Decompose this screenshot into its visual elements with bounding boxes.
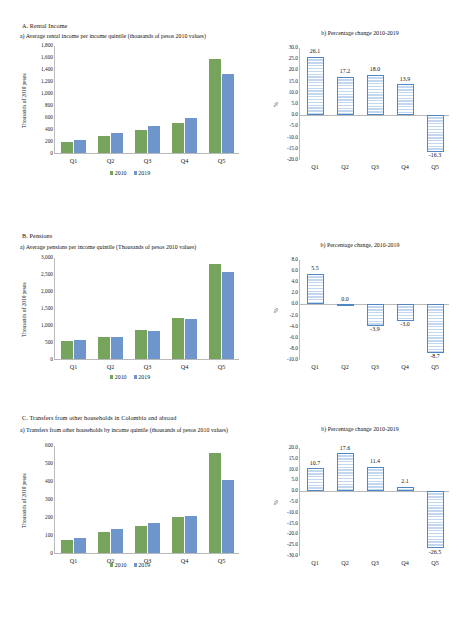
y-tick-label: 600 xyxy=(45,115,53,120)
bar-Q1-2019 xyxy=(74,340,86,359)
bar-Q1-2019 xyxy=(74,538,86,553)
y-tick-label: 100 xyxy=(45,533,53,538)
pct-bar-Q4 xyxy=(397,304,414,321)
data-label-Q5: -16.3 xyxy=(429,153,441,159)
bar-Q5-2010 xyxy=(209,453,221,553)
plot-area-c-a: 0100200300400500600Q1Q2Q3Q4Q5 xyxy=(54,446,239,554)
x-axis-label-Q3: Q3 xyxy=(371,164,379,170)
x-axis-label-Q4: Q4 xyxy=(401,364,409,370)
legend-swatch-2010-icon xyxy=(110,171,113,174)
pct-bar-Q1 xyxy=(307,274,324,305)
legend-swatch-2010-icon xyxy=(110,563,113,566)
legend-a: 2010 2019 xyxy=(110,170,150,176)
y-tick-label: 3,000 xyxy=(41,255,53,260)
x-axis-label-Q3: Q3 xyxy=(371,364,379,370)
x-axis-label-Q3: Q3 xyxy=(144,364,152,370)
y-tick-label: 0 xyxy=(50,551,53,556)
section-heading-b: B. Pensions xyxy=(0,232,459,239)
y-axis-title-a-b: % xyxy=(273,102,279,107)
section-transfers: C. Transfers from other households in Co… xyxy=(0,414,459,435)
plot-area-b-a: 05001,0001,5002,0002,5003,000Q1Q2Q3Q4Q5 xyxy=(54,258,239,360)
data-label-Q1: 26.1 xyxy=(310,49,320,55)
y-tick-label: -5.0 xyxy=(290,499,298,504)
x-axis-label-Q5: Q5 xyxy=(218,558,226,564)
x-axis-label-Q4: Q4 xyxy=(181,158,189,164)
y-tick-label: -5.0 xyxy=(290,124,298,129)
legend-label-2010-c: 2010 xyxy=(115,562,127,568)
y-tick-label: 10.0 xyxy=(289,90,298,95)
pct-bar-Q2 xyxy=(337,453,354,491)
y-axis-title-c-b: % xyxy=(273,500,279,505)
bar-Q2-2019 xyxy=(111,529,123,553)
y-tick-label: 1,500 xyxy=(41,306,53,311)
y-tick-label: 1,000 xyxy=(41,323,53,328)
x-axis-label-Q2: Q2 xyxy=(107,364,115,370)
y-tick-label: 500 xyxy=(45,461,53,466)
pct-bar-Q2 xyxy=(337,77,354,116)
chart-a-a: Thousands of 2010 pesos 02004006008001,0… xyxy=(0,42,250,182)
y-axis-title-b-b: % xyxy=(273,308,279,313)
pct-bar-Q4 xyxy=(397,487,414,492)
data-label-Q1: 5.5 xyxy=(311,266,318,272)
y-tick-label: 0.0 xyxy=(291,113,298,118)
data-label-Q5: -8.7 xyxy=(430,354,439,360)
bar-Q2-2019 xyxy=(111,133,123,153)
chart-c-a: Thousands of 2010 pesos 0100200300400500… xyxy=(0,442,250,582)
bar-Q1-2010 xyxy=(61,540,73,553)
x-axis-label-Q1: Q1 xyxy=(70,364,78,370)
legend-swatch-2019-icon xyxy=(134,563,137,566)
x-axis-label-Q1: Q1 xyxy=(70,558,78,564)
y-tick-label: 1,600 xyxy=(41,55,53,60)
bar-Q3-2019 xyxy=(148,523,160,553)
x-axis-label-Q5: Q5 xyxy=(218,364,226,370)
x-axis-label-Q3: Q3 xyxy=(144,158,152,164)
x-axis-label-Q5: Q5 xyxy=(431,364,439,370)
y-tick-label: -30.0 xyxy=(287,553,298,558)
bar-Q5-2010 xyxy=(209,59,221,153)
bar-Q3-2019 xyxy=(148,126,160,153)
bar-Q4-2010 xyxy=(172,318,184,359)
legend-label-2019-a: 2019 xyxy=(138,170,150,176)
x-axis-label-Q3: Q3 xyxy=(371,560,379,566)
bar-Q3-2010 xyxy=(135,526,147,553)
bar-Q1-2010 xyxy=(61,142,73,153)
y-tick-label: -25.0 xyxy=(287,543,298,548)
bar-Q3-2019 xyxy=(148,331,160,359)
y-tick-label: -6.0 xyxy=(290,335,298,340)
panel-title-b-right: b) Percentage change, 2010-2019 xyxy=(265,242,455,250)
y-axis-title-b-a: Thousands of 2010 pesos xyxy=(21,282,27,337)
y-tick-label: 200 xyxy=(45,515,53,520)
y-tick-label: -10.0 xyxy=(287,357,298,362)
x-axis-label-Q4: Q4 xyxy=(181,558,189,564)
y-tick-label: 20.0 xyxy=(289,445,298,450)
pct-bar-Q3 xyxy=(367,75,384,115)
data-label-Q2: 17.2 xyxy=(340,69,350,75)
bar-Q1-2019 xyxy=(74,140,86,154)
bar-Q4-2019 xyxy=(185,118,197,153)
y-tick-label: 20.0 xyxy=(289,68,298,73)
data-label-Q4: -3.0 xyxy=(400,322,409,328)
y-tick-label: -8.0 xyxy=(290,346,298,351)
y-tick-label: 30.0 xyxy=(289,45,298,50)
y-tick-label: 1,200 xyxy=(41,79,53,84)
y-tick-label: 600 xyxy=(45,443,53,448)
bar-Q2-2019 xyxy=(111,337,123,359)
plot-area-b-b: 8.06.04.02.00.0-2.0-4.0-6.0-8.0-10.05.5Q… xyxy=(299,260,449,360)
y-tick-label: 10.0 xyxy=(289,467,298,472)
y-tick-label: 5.0 xyxy=(291,478,298,483)
plot-area-a-a: 02004006008001,0001,2001,4001,6001,800Q1… xyxy=(54,46,239,154)
x-axis-label-Q2: Q2 xyxy=(341,364,349,370)
legend-swatch-2019-icon xyxy=(134,171,137,174)
y-tick-label: 15.0 xyxy=(289,79,298,84)
bar-Q4-2010 xyxy=(172,123,184,153)
x-axis-label-Q4: Q4 xyxy=(401,164,409,170)
y-tick-label: -10.0 xyxy=(287,510,298,515)
plot-area-c-b: 20.015.010.05.00.0-5.0-10.0-15.0-20.0-25… xyxy=(299,448,449,556)
data-label-Q5: -26.5 xyxy=(429,550,441,556)
y-tick-label: 6.0 xyxy=(291,268,298,273)
y-tick-label: 1,400 xyxy=(41,67,53,72)
bar-Q2-2010 xyxy=(98,136,110,153)
x-axis-label-Q4: Q4 xyxy=(181,364,189,370)
y-tick-label: -4.0 xyxy=(290,324,298,329)
bar-Q5-2019 xyxy=(222,480,234,553)
